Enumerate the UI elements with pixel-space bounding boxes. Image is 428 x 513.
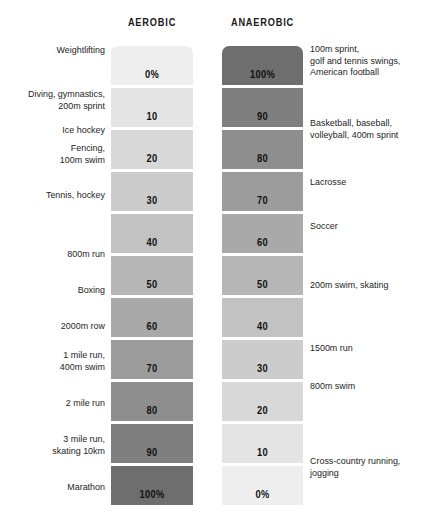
aerobic-activity-label-12: Marathon [0, 481, 105, 493]
bar-value-label: 80 [225, 153, 300, 164]
bar-value-label: 0% [225, 489, 300, 500]
bar-aerobic-70: 70 [111, 340, 193, 379]
anaerobic-activity-label-7: 800m swim [310, 380, 425, 392]
bar-value-label: 90 [114, 447, 190, 458]
anaerobic-activity-label-5: 200m swim, skating [310, 279, 425, 291]
bar-anaerobic-100: 100% [222, 46, 303, 85]
aerobic-activity-label-1: Weightlifting [0, 44, 105, 56]
aerobic-activity-label-6: 800m run [0, 248, 105, 260]
bar-anaerobic-90: 90 [222, 88, 303, 127]
aerobic-anaerobic-energy-chart: AEROBIC ANAEROBIC 0%10203040506070809010… [0, 0, 428, 513]
anaerobic-activity-label-6: 1500m run [310, 342, 425, 354]
bar-aerobic-30: 30 [111, 172, 193, 211]
bar-value-label: 50 [225, 279, 300, 290]
aerobic-activity-label-2: Diving, gymnastics, 200m sprint [0, 88, 105, 111]
bar-value-label: 0% [114, 69, 190, 80]
aerobic-activity-label-7: Boxing [0, 284, 105, 296]
bar-value-label: 90 [225, 111, 300, 122]
bar-aerobic-50: 50 [111, 256, 193, 295]
bar-value-label: 20 [225, 405, 300, 416]
anaerobic-activity-label-3: Lacrosse [310, 176, 425, 188]
aerobic-activity-label-10: 2 mile run [0, 397, 105, 409]
bar-value-label: 100% [225, 69, 300, 80]
aerobic-activity-label-9: 1 mile run, 400m swim [0, 349, 105, 372]
bar-anaerobic-0: 0% [222, 466, 303, 505]
bar-anaerobic-10: 10 [222, 424, 303, 463]
bar-value-label: 70 [225, 195, 300, 206]
bar-value-label: 10 [225, 447, 300, 458]
bar-anaerobic-40: 40 [222, 298, 303, 337]
bar-anaerobic-60: 60 [222, 214, 303, 253]
bar-aerobic-80: 80 [111, 382, 193, 421]
aerobic-activity-label-3: Ice hockey [0, 124, 105, 136]
bar-anaerobic-20: 20 [222, 382, 303, 421]
bar-anaerobic-50: 50 [222, 256, 303, 295]
bar-value-label: 30 [114, 195, 190, 206]
bar-value-label: 70 [114, 363, 190, 374]
column-header-aerobic: AEROBIC [114, 17, 189, 28]
column-header-anaerobic: ANAEROBIC [225, 17, 300, 28]
bar-value-label: 60 [225, 237, 300, 248]
bar-value-label: 50 [114, 279, 190, 290]
aerobic-activity-label-4: Fencing, 100m swim [0, 142, 105, 165]
anaerobic-activity-label-4: Soccer [310, 220, 425, 232]
bar-value-label: 80 [114, 405, 190, 416]
bar-anaerobic-30: 30 [222, 340, 303, 379]
bar-aerobic-100: 100% [111, 466, 193, 505]
bar-value-label: 100% [114, 489, 190, 500]
bar-aerobic-90: 90 [111, 424, 193, 463]
bar-value-label: 30 [225, 363, 300, 374]
anaerobic-activity-label-8: Cross-country running, jogging [310, 455, 425, 478]
anaerobic-activity-label-1: 100m sprint, golf and tennis swings, Ame… [310, 43, 425, 78]
bar-aerobic-10: 10 [111, 88, 193, 127]
anaerobic-activity-label-2: Basketball, baseball, volleyball, 400m s… [310, 117, 425, 140]
bar-aerobic-0: 0% [111, 46, 193, 85]
bar-value-label: 20 [114, 153, 190, 164]
bar-anaerobic-80: 80 [222, 130, 303, 169]
bar-aerobic-40: 40 [111, 214, 193, 253]
bar-value-label: 40 [114, 237, 190, 248]
bar-value-label: 10 [114, 111, 190, 122]
aerobic-activity-label-8: 2000m row [0, 320, 105, 332]
bar-anaerobic-70: 70 [222, 172, 303, 211]
bar-value-label: 40 [225, 321, 300, 332]
aerobic-activity-label-11: 3 mile run, skating 10km [0, 433, 105, 456]
bar-aerobic-60: 60 [111, 298, 193, 337]
aerobic-activity-label-5: Tennis, hockey [0, 189, 105, 201]
bar-value-label: 60 [114, 321, 190, 332]
bar-aerobic-20: 20 [111, 130, 193, 169]
